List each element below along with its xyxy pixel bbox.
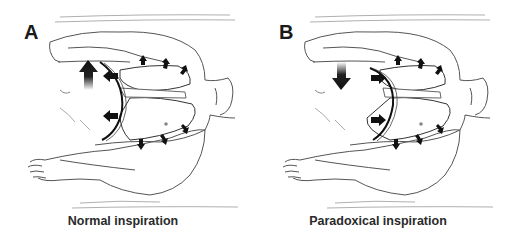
panel-a-normal-inspiration: A Normal inspiration bbox=[0, 0, 250, 242]
panel-label-b: B bbox=[279, 21, 293, 44]
caption-paradoxical-inspiration: Paradoxical inspiration bbox=[263, 214, 493, 228]
caption-normal-inspiration: Normal inspiration bbox=[8, 214, 238, 228]
panel-label-a: A bbox=[24, 21, 38, 44]
abdomen-arrow-down-icon bbox=[332, 62, 351, 90]
diaphragm-arrows-outward-icon bbox=[103, 70, 118, 122]
abdomen-arrow-up-icon bbox=[79, 60, 98, 90]
panel-b-paradoxical-inspiration: B Paradoxical inspiration bbox=[255, 0, 505, 242]
